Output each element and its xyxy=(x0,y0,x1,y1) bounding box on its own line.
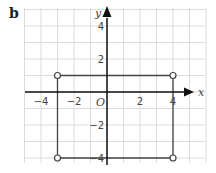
x-tick-label: 2 xyxy=(137,96,143,107)
grid-lines xyxy=(25,8,207,163)
vertex-markers xyxy=(55,73,177,162)
y-tick-label: −4 xyxy=(89,153,104,164)
origin-label: O xyxy=(96,96,105,109)
open-circle-marker-icon xyxy=(170,73,176,79)
x-axis-label: x xyxy=(198,86,205,99)
y-axis-label: y xyxy=(94,7,102,20)
x-tick-label: −2 xyxy=(67,96,82,107)
coordinate-grid-chart: xyO −4−22442−2−4 xyxy=(0,0,216,173)
y-tick-label: −2 xyxy=(89,120,104,131)
open-circle-marker-icon xyxy=(55,155,61,161)
open-circle-marker-icon xyxy=(170,155,176,161)
open-circle-marker-icon xyxy=(55,73,61,79)
rectangle-outline xyxy=(58,76,174,159)
y-tick-label: 4 xyxy=(98,21,104,32)
y-tick-label: 2 xyxy=(98,54,104,65)
rectangle-shape xyxy=(58,76,174,159)
x-tick-label: −4 xyxy=(34,96,49,107)
y-axis-arrow-icon xyxy=(103,6,112,17)
x-tick-label: 4 xyxy=(170,96,176,107)
